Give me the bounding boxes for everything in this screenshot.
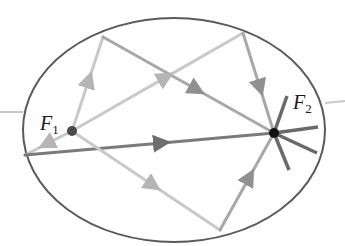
ray-segment (220, 133, 274, 230)
reflected-rays (25, 33, 274, 230)
focus2-spoke (274, 96, 287, 133)
focus2-spoke (274, 127, 318, 133)
focus2-label: F2 (293, 92, 312, 115)
focus2-point (269, 128, 279, 138)
axis-stub (325, 101, 345, 103)
focus1-label: F1 (40, 113, 59, 136)
focus1-point (67, 126, 77, 136)
focus2-label-letter: F (293, 91, 305, 113)
ray-segment (72, 33, 243, 131)
focus1-label-subscript: 1 (52, 122, 59, 137)
focus1-label-letter: F (40, 112, 52, 134)
focus2-label-subscript: 2 (305, 101, 312, 116)
ray-segment (72, 131, 220, 230)
